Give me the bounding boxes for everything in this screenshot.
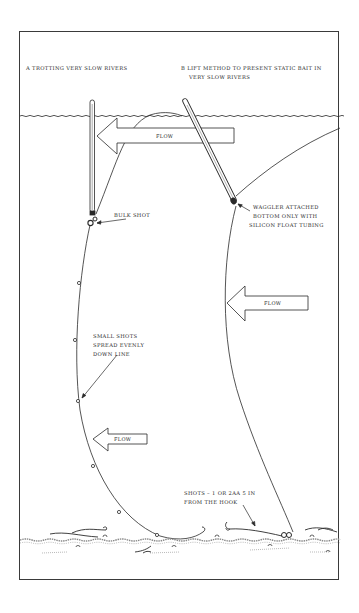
small-shots-label-line1: SMALL SHOTS <box>93 332 137 341</box>
bulk-shot-label: BULK SHOT <box>114 211 150 220</box>
panel-b-title-line2: VERY SLOW RIVERS <box>189 73 250 82</box>
small-shot-icon <box>77 281 80 284</box>
small-shot-icon <box>155 533 158 536</box>
flow-label-lower: FLOW <box>114 436 131 442</box>
waggler-label-line3: SILICON FLOAT TUBING <box>249 221 324 230</box>
small-shot-icon <box>117 510 120 513</box>
annotation-arrows <box>82 204 255 526</box>
riverbed <box>20 539 340 553</box>
small-shots-label-line3: DOWN LINE <box>93 350 130 359</box>
small-shot-icon <box>73 338 76 341</box>
fishing-rig-illustration <box>0 0 359 613</box>
line-b-lower <box>225 206 293 532</box>
waggler-label-line2: BOTTOM ONLY WITH <box>253 212 317 221</box>
small-shot-icon <box>76 399 79 402</box>
waggler-label-line1: WAGGLER ATTACHED <box>253 203 319 212</box>
flow-label-right: FLOW <box>264 300 281 306</box>
float-a-icon <box>88 100 97 226</box>
shots-label-line1: SHOTS – 1 OR 2AA 5 IN <box>184 489 255 498</box>
panel-b-title: B LIFT METHOD TO PRESENT STATIC BAIT IN <box>181 64 322 73</box>
panel-a-title: A TROTTING VERY SLOW RIVERS <box>26 64 127 73</box>
small-shots-label-line2: SPREAD EVENLY <box>93 341 144 350</box>
shots-label-line2: FROM THE HOOK <box>184 498 238 507</box>
small-shot-icon <box>91 464 94 467</box>
flow-label-upper: FLOW <box>156 133 173 139</box>
line-b-upper <box>236 128 340 196</box>
shot-pair-icon <box>282 533 287 538</box>
